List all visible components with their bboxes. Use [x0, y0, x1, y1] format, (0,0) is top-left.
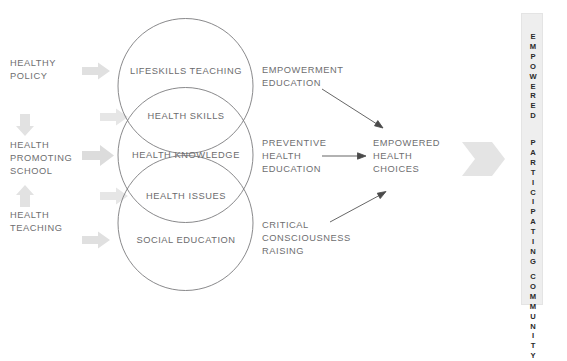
label-preventive-health-education: PREVENTIVE HEALTH EDUCATION — [262, 137, 326, 177]
down-arrow-icon — [16, 114, 34, 136]
vertical-text-community: C O M M U N I T Y — [522, 272, 544, 361]
arrow-empowerment-to-outcome — [322, 89, 383, 128]
feed-arrow-health-knowledge — [82, 145, 114, 166]
vertical-text-participating: P A R T I C I P A T I N G — [522, 138, 544, 267]
feed-arrow-lifeskills — [82, 63, 110, 80]
label-health-promoting-school: HEALTH PROMOTING SCHOOL — [10, 139, 72, 179]
circle-lifeskills-teaching-shape — [118, 19, 253, 154]
label-healthy-policy: HEALTHY POLICY — [10, 57, 56, 83]
circle-social-education-shape — [118, 156, 253, 291]
empowered-participating-community-box: E M P O W E R E D P A R T I C I P A T I … — [521, 13, 543, 305]
arrow-preventive-to-outcome — [322, 153, 366, 159]
vertical-text-empowered: E M P O W E R E D — [522, 32, 544, 121]
label-social-education: SOCIAL EDUCATION — [136, 234, 235, 247]
big-right-chevron-icon — [462, 142, 505, 176]
label-health-teaching: HEALTH TEACHING — [10, 209, 62, 235]
feed-arrow-social-education — [82, 232, 110, 249]
label-health-skills: HEALTH SKILLS — [147, 110, 224, 123]
arrow-critical-to-outcome — [330, 192, 386, 223]
label-empowerment-education: EMPOWERMENT EDUCATION — [262, 64, 343, 90]
feed-arrow-health-skills — [100, 109, 128, 126]
label-critical-consciousness-raising: CRITICAL CONSCIOUSNESS RAISING — [262, 219, 351, 259]
label-health-issues: HEALTH ISSUES — [146, 190, 226, 203]
label-health-knowledge: HEALTH KNOWLEDGE — [132, 149, 240, 162]
up-arrow-icon — [16, 185, 34, 207]
label-empowered-health-choices: EMPOWERED HEALTH CHOICES — [373, 137, 440, 177]
label-lifeskills-teaching: LIFESKILLS TEACHING — [130, 65, 242, 78]
